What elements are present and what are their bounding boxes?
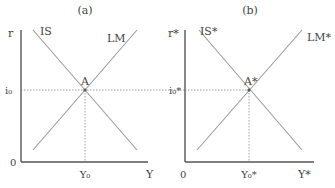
equilibrium-point-a [83,88,86,91]
equilibrium-point-a-star [247,88,250,91]
is-curve-label: IS [40,25,52,38]
equilibrium-a-star-label: A* [243,75,258,88]
panel-a-y-axis-label: r [8,27,14,40]
panel-a: (a) r 0 Y IS LM A i₀ Y₀ [5,4,185,181]
panel-b-y-axis-label: r* [168,27,179,40]
panel-a-origin-label: 0 [10,157,16,168]
panel-b-x-axis-label: Y* [297,168,311,181]
panel-b-title: (b) [242,4,258,17]
interest-rate-i0-star-label: i₀* [169,85,181,96]
output-y0-label: Y₀ [79,169,91,180]
is-star-curve-label: IS* [200,25,218,38]
panel-a-title: (a) [77,4,92,17]
is-lm-diagram: (a) r 0 Y IS LM A i₀ Y₀ (b) [0,0,335,188]
output-y0-star-label: Y₀* [240,169,257,180]
panel-a-x-axis-label: Y [145,168,154,181]
lm-curve-label: LM [107,32,126,45]
panel-b-origin-label: 0 [180,169,186,180]
equilibrium-a-label: A [80,75,90,88]
panel-b: (b) r* 0 Y* IS* LM* A* i₀* Y₀* [168,4,332,181]
lm-star-curve-label: LM* [307,31,332,44]
interest-rate-i0-label: i₀ [5,85,12,96]
